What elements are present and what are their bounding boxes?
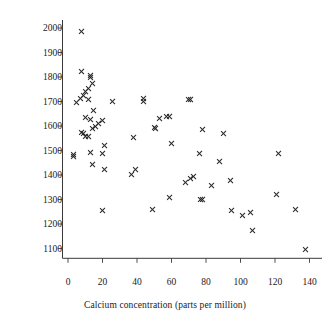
data-point	[99, 150, 106, 157]
data-point	[185, 96, 192, 103]
data-point	[78, 28, 85, 35]
data-point	[82, 88, 89, 95]
data-point	[197, 196, 204, 203]
data-point	[85, 85, 92, 92]
data-point	[101, 142, 108, 149]
data-point	[156, 115, 163, 122]
data-point	[190, 173, 197, 180]
data-point	[80, 92, 87, 99]
data-point	[90, 107, 97, 114]
data-point	[220, 130, 227, 137]
plot-area	[0, 0, 330, 324]
data-point	[199, 196, 206, 203]
data-point	[292, 206, 299, 213]
data-point	[85, 133, 92, 140]
data-point	[275, 150, 282, 157]
data-point	[163, 113, 170, 120]
data-point	[85, 96, 92, 103]
data-point	[152, 125, 159, 132]
data-point	[151, 124, 158, 131]
data-point	[70, 151, 77, 158]
data-point	[78, 68, 85, 75]
data-point	[273, 191, 280, 198]
data-point	[187, 175, 194, 182]
data-point	[249, 227, 256, 234]
data-point	[92, 123, 99, 130]
scatter-chart: Mortality rate (per 100 000) Calcium con…	[0, 0, 330, 324]
data-point	[89, 161, 96, 168]
data-point	[87, 149, 94, 156]
data-point	[109, 98, 116, 105]
data-point	[70, 153, 77, 160]
data-point	[87, 72, 94, 79]
data-point	[73, 99, 80, 106]
data-point	[187, 96, 194, 103]
data-point	[208, 182, 215, 189]
data-point	[182, 179, 189, 186]
data-point	[87, 116, 94, 123]
data-point	[228, 207, 235, 214]
data-point	[166, 194, 173, 201]
data-point	[196, 150, 203, 157]
data-point	[96, 120, 103, 127]
data-point	[227, 177, 234, 184]
data-point	[239, 212, 246, 219]
data-point	[82, 133, 89, 140]
data-point	[166, 113, 173, 120]
data-point	[99, 207, 106, 214]
data-point	[82, 114, 89, 121]
data-point	[87, 74, 94, 81]
data-point	[99, 117, 106, 124]
data-point	[130, 134, 137, 141]
data-point	[140, 98, 147, 105]
data-point	[149, 206, 156, 213]
data-point	[303, 246, 310, 253]
data-point	[199, 126, 206, 133]
data-point	[132, 166, 139, 173]
data-point	[168, 140, 175, 147]
data-point	[140, 95, 147, 102]
data-point	[89, 80, 96, 87]
data-point	[101, 166, 108, 173]
data-point	[80, 130, 87, 137]
data-point	[78, 129, 85, 136]
data-point	[247, 209, 254, 216]
data-point	[89, 125, 96, 132]
data-point	[77, 95, 84, 102]
data-point	[128, 171, 135, 178]
data-point	[216, 158, 223, 165]
